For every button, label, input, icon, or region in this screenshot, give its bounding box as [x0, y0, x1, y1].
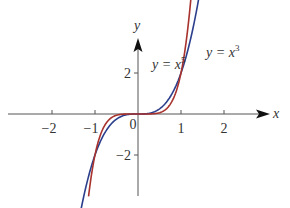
- x-tick-label: −2: [42, 121, 57, 136]
- curve-y-equals-x-cubed: [76, 0, 205, 208]
- y-axis-label: y: [132, 18, 141, 33]
- label-x3: y = x3: [204, 43, 240, 60]
- y-tick-label: −2: [116, 148, 131, 163]
- x-axis-label: x: [272, 106, 280, 121]
- x-tick-label: 1: [178, 121, 185, 136]
- label-x5-exp: 5: [181, 55, 186, 65]
- cubic-quintic-plot: −2 −1 0 1 2 2 −2 x y y = x5 y = x3: [0, 0, 290, 208]
- y-tick-label: 2: [124, 66, 131, 81]
- label-x3-exp: 3: [235, 43, 240, 53]
- curve-y-equals-x-fifth: [89, 0, 194, 196]
- origin-label: 0: [130, 117, 137, 132]
- x-tick-label: −1: [84, 121, 99, 136]
- x-tick-label: 2: [221, 121, 228, 136]
- label-x3-base: y = x: [204, 45, 236, 60]
- label-x5: y = x5: [150, 55, 186, 72]
- label-x5-base: y = x: [150, 57, 182, 72]
